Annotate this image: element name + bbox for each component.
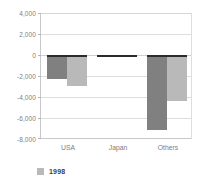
y-tick-label: -2,000 xyxy=(0,73,36,80)
plot-area xyxy=(40,13,192,139)
bar-group-others xyxy=(147,13,191,139)
x-axis-labels: USA Japan Others xyxy=(40,141,192,155)
bar-others-series-1[interactable] xyxy=(147,55,167,130)
x-tick-label-japan: Japan xyxy=(94,143,142,152)
x-tick-label-others: Others xyxy=(144,143,192,152)
y-tick-label: -6,000 xyxy=(0,115,36,122)
bar-cap xyxy=(67,55,87,57)
bar-usa-1998[interactable] xyxy=(67,55,87,86)
x-tick-label-usa: USA xyxy=(44,143,92,152)
bar-usa-series-1[interactable] xyxy=(47,55,67,79)
y-tick-label: -8,000 xyxy=(0,136,36,143)
bar-cap xyxy=(47,55,67,57)
y-axis-labels: 4,000 2,000 0 -2,000 -4,000 -6,000 -8,00… xyxy=(0,0,36,186)
y-tick-label: -4,000 xyxy=(0,94,36,101)
bar-cap xyxy=(167,55,187,57)
bar-japan-1998[interactable] xyxy=(117,55,137,57)
y-tick-label: 0 xyxy=(0,52,36,59)
bar-cap xyxy=(147,55,167,57)
bar-others-1998[interactable] xyxy=(167,55,187,101)
bar-groups xyxy=(41,13,191,139)
legend-label-1998: 1998 xyxy=(49,168,65,175)
bar-cap xyxy=(117,55,137,57)
y-tick-label: 4,000 xyxy=(0,10,36,17)
chart-legend: 1998 xyxy=(37,168,65,175)
bar-group-usa xyxy=(47,13,91,139)
legend-swatch-1998 xyxy=(37,168,44,175)
bar-chart-figure: 4,000 2,000 0 -2,000 -4,000 -6,000 -8,00… xyxy=(0,0,209,186)
bar-japan-series-1[interactable] xyxy=(97,55,117,57)
bar-group-japan xyxy=(97,13,141,139)
y-tick-label: 2,000 xyxy=(0,31,36,38)
bar-cap xyxy=(97,55,117,57)
